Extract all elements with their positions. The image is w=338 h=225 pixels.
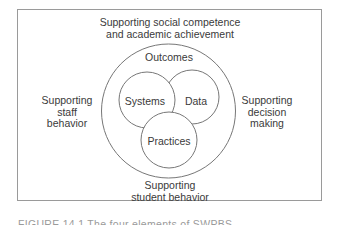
top-label-line-1: Supporting social competence — [88, 17, 252, 29]
right-label-line-1: Supporting — [237, 95, 297, 107]
data-label: Data — [178, 96, 214, 108]
bottom-label-line-2: student behavior — [120, 192, 220, 204]
top-label-line-2: and academic achievement — [88, 29, 252, 41]
figure-caption: FIGURE 14.1 The four elements of SWPBS — [18, 219, 232, 225]
practices-label: Practices — [140, 136, 198, 148]
outcomes-label: Outcomes — [138, 52, 200, 64]
top-label: Supporting social competence and academi… — [88, 17, 252, 40]
left-label-line-1: Supporting — [37, 95, 97, 107]
left-label: Supporting staff behavior — [37, 95, 97, 130]
systems-label: Systems — [120, 96, 170, 108]
bottom-label: Supporting student behavior — [120, 180, 220, 203]
right-label: Supporting decision making — [237, 95, 297, 130]
left-label-line-3: behavior — [37, 118, 97, 130]
bottom-label-line-1: Supporting — [120, 180, 220, 192]
right-label-line-3: making — [237, 118, 297, 130]
